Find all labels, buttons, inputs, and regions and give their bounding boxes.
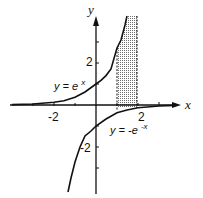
y-axis-arrow-icon: [93, 16, 99, 26]
x-axis-label: x: [184, 97, 191, 112]
figure-canvas: y x -2 2 2 -2 y = e x y = -e -x: [0, 0, 203, 198]
shaded-region: [117, 16, 138, 108]
tick-label-y-neg2: -2: [80, 141, 91, 155]
tick-label-y-pos2: 2: [86, 55, 93, 69]
y-axis-label: y: [86, 2, 94, 17]
label-curve-exp: y = e x: [53, 78, 86, 92]
tick-label-x-neg2: -2: [48, 110, 59, 124]
label-curve-neg-exp: y = -e -x: [109, 122, 149, 136]
